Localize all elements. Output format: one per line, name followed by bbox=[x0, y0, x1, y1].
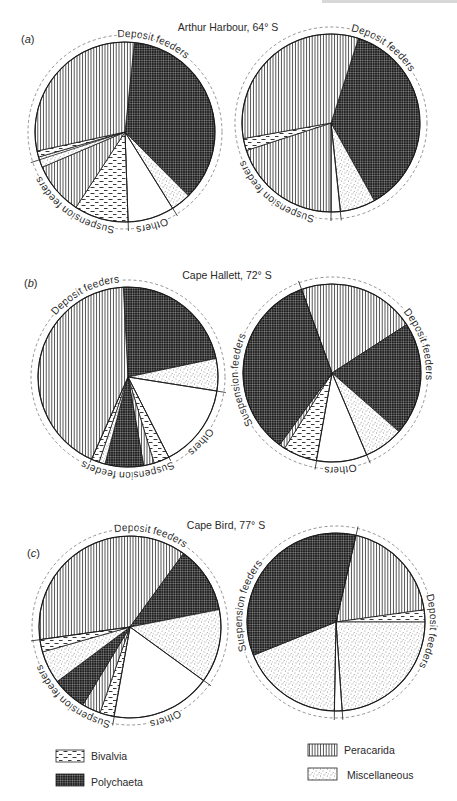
feeding-group-pie-figure: (a) Arthur Harbour, 64° S (b) Cape Halle… bbox=[0, 0, 457, 801]
site-title-cape-hallett: Cape Hallett, 72° S bbox=[182, 269, 271, 281]
legend-label-miscellaneous: Miscellaneous bbox=[347, 769, 414, 781]
pie-chart-a-right: Deposit feedersSuspension feeders bbox=[235, 21, 427, 225]
peracarida-swatch-icon bbox=[308, 744, 337, 756]
pie-slice-miscellaneous bbox=[336, 622, 425, 711]
miscellaneous-swatch-icon bbox=[308, 768, 337, 780]
pie-chart-a-left: Deposit feedersOthersSuspension feeders bbox=[28, 27, 222, 236]
bivalvia-swatch-icon bbox=[56, 750, 84, 762]
legend-item-polychaeta: Polychaeta bbox=[56, 774, 143, 788]
legend-label-bivalvia: Bivalvia bbox=[91, 750, 127, 762]
legend-item-peracarida: Peracarida bbox=[308, 744, 395, 756]
panel-label-c: (c) bbox=[27, 547, 40, 559]
panel-label-b: (b) bbox=[24, 277, 37, 289]
legend-label-polychaeta: Polychaeta bbox=[91, 776, 143, 788]
pie-charts: Deposit feedersOthersSuspension feedersD… bbox=[28, 21, 440, 730]
legend-item-bivalvia: Bivalvia bbox=[56, 750, 127, 762]
cropped-running-header bbox=[322, 0, 457, 3]
panel-b: (b) Cape Hallett, 72° S bbox=[24, 269, 272, 289]
pie-chart-b-left: Deposit feedersOthersSuspension feeders bbox=[31, 272, 226, 482]
site-title-arthur-harbour: Arthur Harbour, 64° S bbox=[178, 21, 279, 33]
panel-label-a: (a) bbox=[21, 33, 34, 45]
pie-chart-c-right: Deposit feedersSuspension feeders bbox=[232, 526, 440, 720]
legend-label-peracarida: Peracarida bbox=[344, 744, 395, 756]
site-title-cape-bird: Cape Bird, 77° S bbox=[187, 519, 265, 531]
polychaeta-swatch-icon bbox=[56, 774, 84, 786]
legend-item-miscellaneous: Miscellaneous bbox=[308, 768, 414, 781]
pie-chart-c-left: Deposit feedersOthersSuspension feeders bbox=[31, 521, 228, 731]
pie-chart-b-right: Deposit feedersOthersSuspension feeders bbox=[228, 277, 436, 477]
legend: Bivalvia Polychaeta Peracarida Miscellan… bbox=[56, 744, 414, 788]
group-label-others: Others bbox=[324, 462, 358, 477]
